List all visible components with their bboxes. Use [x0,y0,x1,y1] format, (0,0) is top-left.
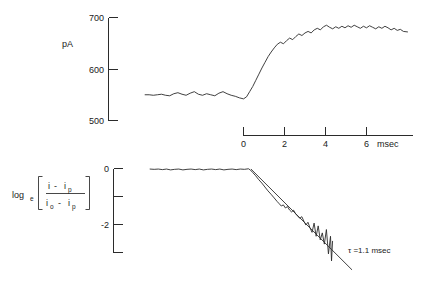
denominator-minus: - [58,198,61,208]
bracket-right [86,177,90,210]
top-x-tick-2: 2 [282,139,287,149]
numerator-i-p: i [64,181,66,191]
top-x-tick-4: 4 [323,139,328,149]
denominator-i-o: i [46,198,48,208]
numerator-minus: - [54,181,57,191]
bottom-y-tick-minus2: -2 [101,220,109,230]
current-trace [145,25,407,99]
numerator-i-p-subscript: p [68,186,72,194]
figure-container: 700 600 500 pA 0 2 4 6 msec 0 -2 log e [0,0,421,282]
denominator-i-p: i [68,198,70,208]
top-y-axis-unit-label: pA [62,39,73,49]
top-y-axis [109,18,118,121]
figure-svg: 700 600 500 pA 0 2 4 6 msec 0 -2 log e [0,0,421,282]
bottom-y-axis-label: log e i - i p i o - i p [12,177,90,212]
bracket-left [39,177,43,210]
panel-current-vs-time: 700 600 500 pA 0 2 4 6 msec [62,13,413,149]
tau-annotation: τ =1.1 msec [348,246,391,255]
top-y-tick-700: 700 [89,13,104,23]
exponential-fit-line [251,169,352,270]
bottom-y-tick-0: 0 [104,164,109,174]
denominator-i-p-subscript: p [72,203,76,211]
numerator-i: i [48,181,50,191]
top-x-tick-0: 0 [241,139,246,149]
log-decay-trace [150,169,332,261]
top-x-tick-6: 6 [364,139,369,149]
top-y-tick-600: 600 [89,65,104,75]
bottom-y-axis [114,169,123,253]
log-label-subscript-e: e [30,195,34,202]
top-x-axis [244,127,413,136]
top-x-axis-unit-label: msec [377,139,399,149]
top-y-tick-500: 500 [89,116,104,126]
panel-semilog-decay: 0 -2 log e i - i p i o - [12,164,391,270]
denominator-i-o-subscript: o [50,203,54,210]
log-label-base: log [12,190,24,200]
